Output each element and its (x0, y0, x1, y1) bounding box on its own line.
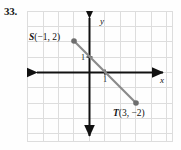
point-coords-s: (−1, 2) (34, 32, 60, 42)
coordinate-graph: y x 1 1 S(−1, 2) T(3, −2) (27, 11, 173, 142)
point-coords-t: (3, −2) (119, 108, 145, 118)
y-tick-label-1: 1 (81, 53, 85, 62)
point-t (133, 100, 139, 106)
point-label-s: S(−1, 2) (29, 32, 60, 42)
y-axis-label: y (100, 16, 104, 26)
plot-overlay (27, 11, 173, 142)
x-axis-label: x (160, 75, 164, 85)
exercise-figure: 33. (0, 0, 181, 150)
point-s (71, 38, 77, 44)
problem-number: 33. (4, 5, 17, 17)
point-label-t: T(3, −2) (113, 108, 145, 118)
x-tick-label-1: 1 (103, 75, 107, 84)
